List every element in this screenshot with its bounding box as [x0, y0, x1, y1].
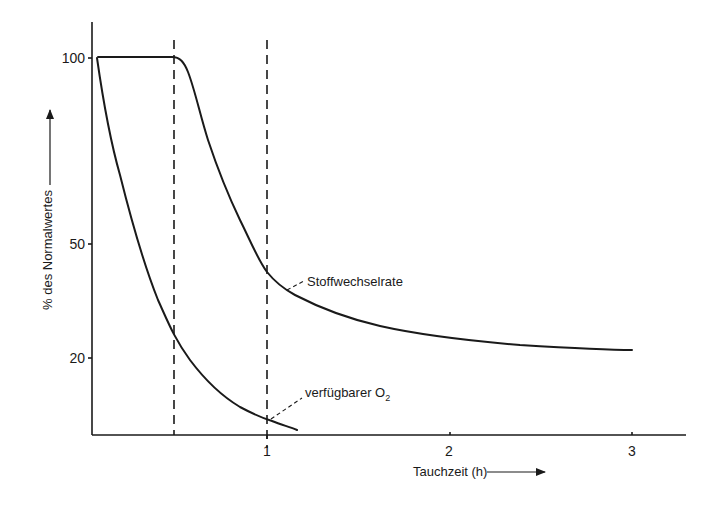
metabolic-annotation-leader	[287, 281, 304, 290]
y-tick-label-50: 50	[69, 236, 85, 252]
y-tick-label-20: 20	[69, 350, 85, 366]
annotation-o2-main: verfügbarer O	[305, 385, 385, 400]
chart-canvas: 100 50 20 1 2 3 Tauchzeit (h) % des Norm…	[0, 0, 707, 509]
series-stoffwechselrate	[98, 57, 632, 350]
x-tick-label-2: 2	[445, 443, 453, 459]
y-tick-label-100: 100	[62, 50, 86, 66]
annotation-verfuegbarer-o2: verfügbarer O2	[305, 385, 390, 403]
x-axis-title: Tauchzeit (h)	[413, 464, 487, 479]
annotation-o2-subscript: 2	[385, 393, 390, 403]
o2-annotation-leader	[271, 398, 302, 419]
annotation-stoffwechselrate: Stoffwechselrate	[307, 274, 403, 289]
x-tick-label-3: 3	[628, 443, 636, 459]
y-axis-title: % des Normalwertes	[40, 190, 55, 310]
